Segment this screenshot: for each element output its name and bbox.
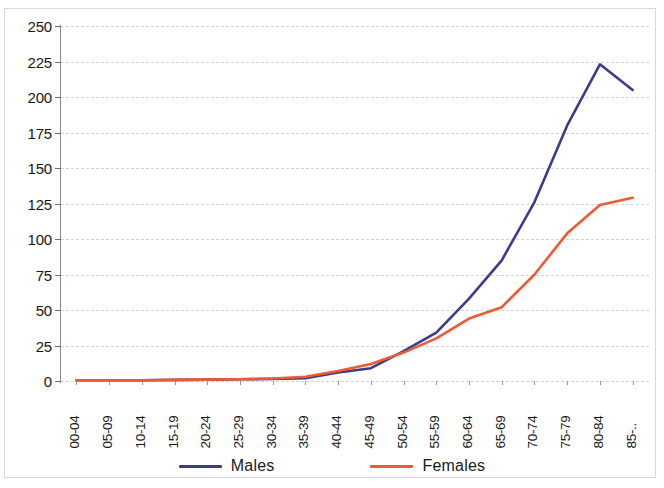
legend-label: Males (231, 458, 275, 474)
y-axis-tick-label: 0 (6, 374, 52, 389)
series-line-males (76, 64, 632, 380)
y-axis-tick (55, 204, 61, 205)
gridline (61, 275, 649, 277)
x-axis-tick-label: 25-29 (231, 378, 245, 448)
x-axis-tick-label: 35-39 (297, 378, 311, 448)
y-axis-tick-label: 25 (6, 339, 52, 354)
x-axis-tick-label: 30-34 (264, 378, 278, 448)
x-axis-tick-label: 55-59 (428, 378, 442, 448)
series-line-females (76, 198, 632, 380)
x-axis-tick-label: 45-49 (362, 378, 376, 448)
x-axis-tick-label: 65-69 (493, 378, 507, 448)
y-axis-tick (55, 310, 61, 311)
gridline (61, 239, 649, 241)
y-axis-tick-label: 250 (6, 19, 52, 34)
y-axis-tick-label: 200 (6, 90, 52, 105)
y-axis-tick (55, 97, 61, 98)
gridline (61, 97, 649, 99)
gridline (61, 204, 649, 206)
x-axis-tick-label: 70-74 (526, 378, 540, 448)
x-axis-tick-label: 75-79 (559, 378, 573, 448)
gridline (61, 310, 649, 312)
y-axis-tick (55, 346, 61, 347)
gridline (61, 133, 649, 135)
x-axis-tick-label: 80-84 (591, 378, 605, 448)
y-axis-tick-label: 50 (6, 303, 52, 318)
line-chart: 0255075100125150175200225250 00-0405-091… (0, 0, 664, 488)
x-axis-tick-label: 05-09 (101, 378, 115, 448)
x-axis-tick-label: 50-54 (395, 378, 409, 448)
y-axis-tick (55, 168, 61, 169)
x-axis-tick-label: 20-24 (199, 378, 213, 448)
gridline (61, 168, 649, 170)
y-axis-tick (55, 133, 61, 134)
legend-item-females[interactable]: Females (370, 458, 485, 474)
y-axis-tick-label: 150 (6, 161, 52, 176)
gridline (61, 62, 649, 64)
y-axis-tick (55, 239, 61, 240)
y-axis-tick-label: 125 (6, 197, 52, 212)
x-axis-tick-label: 10-14 (133, 378, 147, 448)
legend-line-icon (179, 465, 222, 468)
x-axis-tick-label: 85-.. (624, 378, 638, 448)
x-axis-tick-label: 60-64 (461, 378, 475, 448)
legend-line-icon (370, 465, 413, 468)
gridline (61, 26, 649, 28)
x-axis-tick-label: 15-19 (166, 378, 180, 448)
x-axis-tick-label: 40-44 (330, 378, 344, 448)
gridline (61, 346, 649, 348)
y-axis-tick (55, 275, 61, 276)
legend-item-males[interactable]: Males (179, 458, 275, 474)
chart-legend: MalesFemales (0, 458, 664, 474)
y-axis-tick (55, 26, 61, 27)
y-axis-tick-label: 75 (6, 268, 52, 283)
legend-label: Females (422, 458, 485, 474)
y-axis-tick (55, 62, 61, 63)
x-axis-tick-label: 00-04 (68, 378, 82, 448)
y-axis-tick-label: 225 (6, 55, 52, 70)
y-axis-tick-label: 175 (6, 126, 52, 141)
y-axis-tick-label: 100 (6, 232, 52, 247)
